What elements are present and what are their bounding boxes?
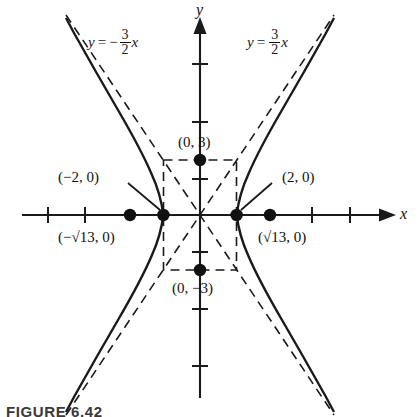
point-covertex-bottom[interactable] bbox=[194, 264, 206, 276]
asymptote-right-equation-label: y = 3 2 x bbox=[247, 28, 288, 57]
asymptote-left-equals: = bbox=[98, 35, 106, 50]
asymptote-left-sign: − bbox=[109, 35, 117, 50]
x-axis-arrowhead bbox=[379, 209, 396, 222]
asymptote-left-var: y bbox=[88, 35, 95, 50]
asymptote-left-denominator: 2 bbox=[120, 42, 131, 57]
point-covertex-top[interactable] bbox=[194, 154, 206, 166]
asymptote-right-var: y bbox=[247, 35, 254, 50]
leader-line-vertex-left bbox=[128, 183, 160, 210]
label-vertex-left: (−2, 0) bbox=[58, 170, 99, 185]
asymptote-right-fraction: 3 2 bbox=[269, 28, 280, 57]
label-covertex-top: (0, 3) bbox=[178, 135, 211, 150]
y-axis-label: y bbox=[196, 2, 203, 18]
label-vertex-right: (2, 0) bbox=[282, 170, 315, 185]
figure-container: y x y = − 3 2 x y = 3 2 x (−2, 0) (2, 0)… bbox=[0, 0, 419, 417]
point-vertex-left[interactable] bbox=[157, 209, 169, 221]
asymptote-right-denominator: 2 bbox=[269, 42, 280, 57]
leader-line-vertex-right bbox=[241, 183, 272, 210]
y-axis-arrowhead bbox=[194, 17, 207, 34]
label-covertex-bottom: (0, −3) bbox=[172, 281, 213, 296]
label-focus-right: (√13, 0) bbox=[258, 230, 306, 245]
point-focus-right[interactable] bbox=[264, 209, 276, 221]
figure-caption: FIGURE 6.42 bbox=[6, 403, 103, 417]
asymptote-right-numerator: 3 bbox=[269, 28, 280, 42]
point-vertex-right[interactable] bbox=[230, 209, 242, 221]
asymptote-left-fraction: 3 2 bbox=[120, 28, 131, 57]
asymptote-right-equals: = bbox=[257, 35, 265, 50]
x-axis-label: x bbox=[400, 206, 407, 222]
axes-group bbox=[22, 17, 396, 398]
label-focus-left: (−√13, 0) bbox=[58, 230, 115, 245]
asymptote-left-suffix: x bbox=[132, 35, 139, 50]
asymptote-left-equation-label: y = − 3 2 x bbox=[88, 28, 138, 57]
asymptote-right-suffix: x bbox=[281, 35, 288, 50]
asymptote-left-numerator: 3 bbox=[120, 28, 131, 42]
point-focus-left[interactable] bbox=[124, 209, 136, 221]
hyperbola-plot bbox=[0, 0, 419, 417]
